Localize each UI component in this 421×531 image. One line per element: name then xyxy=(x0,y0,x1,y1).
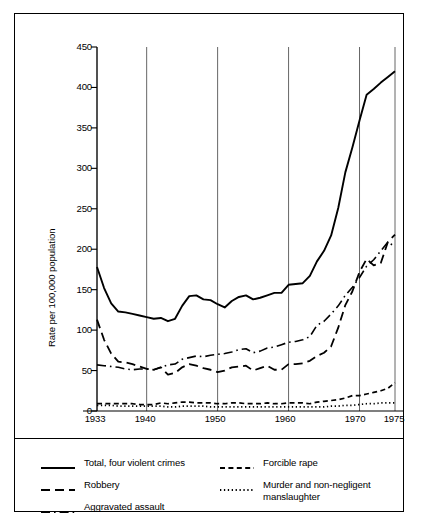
series-line-total-four-violent-crimes xyxy=(97,71,395,321)
series-group xyxy=(97,71,395,407)
series-line-aggravated-assault xyxy=(97,242,395,370)
legend-item: Murder and non-negligent manslaughter xyxy=(220,479,370,502)
dashed-line-icon xyxy=(41,481,75,493)
legend-column-left: Total, four violent crimesRobberyAggrava… xyxy=(41,457,185,523)
dashed-line-icon xyxy=(220,459,254,471)
legend-item-label: Total, four violent crimes xyxy=(84,457,185,469)
legend-item-label: Aggravated assault xyxy=(84,501,164,513)
legend-item: Robbery xyxy=(41,479,185,492)
plot-area: Rate per 100,000 population 450 400 350 … xyxy=(15,14,403,438)
dash-dot-line-icon xyxy=(41,503,75,515)
series-line-robbery xyxy=(97,235,395,375)
series-line-forcible-rape xyxy=(97,383,395,405)
legend-item-label: Murder and non-negligent manslaughter xyxy=(263,479,370,502)
figure-frame: Rate per 100,000 population 450 400 350 … xyxy=(14,13,404,512)
chart-canvas xyxy=(15,14,403,438)
axis-group xyxy=(83,47,403,411)
solid-line-icon xyxy=(41,459,75,471)
legend-item: Aggravated assault xyxy=(41,501,185,514)
legend-column-right: Forcible rapeMurder and non-negligent ma… xyxy=(220,457,370,511)
legend-item: Total, four violent crimes xyxy=(41,457,185,470)
legend: Total, four violent crimesRobberyAggrava… xyxy=(15,439,403,511)
dotted-line-icon xyxy=(220,481,254,493)
gridlines-group xyxy=(97,47,395,411)
legend-item: Forcible rape xyxy=(220,457,370,470)
legend-item-label: Robbery xyxy=(84,479,120,491)
legend-item-label: Forcible rape xyxy=(263,457,318,469)
